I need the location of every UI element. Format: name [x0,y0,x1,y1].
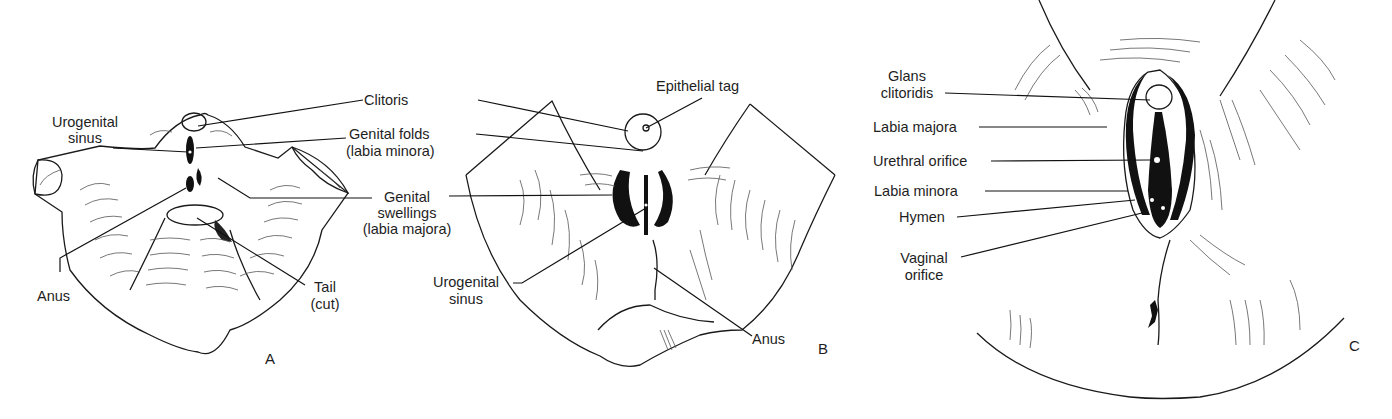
label-urogenital-sinus-a-line2: sinus [45,130,125,146]
label-epithelial-tag: Epithelial tag [656,78,739,94]
label-clitoris-a: Clitoris [364,92,408,108]
panel-c-drawing [945,0,1344,399]
label-vaginal-orifice-line1: Vaginal [888,250,960,266]
label-genital-swellings-line1: Genital [366,189,448,205]
label-genital-folds-line2: (labia minora) [346,143,435,159]
panel-b-drawing [449,98,835,366]
label-genital-swellings-line3: (labia majora) [348,221,466,237]
label-genital-swellings-line2: swellings [366,205,448,221]
panel-letter-a: A [265,350,275,367]
label-glans-line1: Glans [871,68,943,84]
label-vaginal-orifice-line2: orifice [888,267,960,283]
label-anus-b: Anus [752,331,785,347]
panel-letter-c: C [1349,337,1360,354]
label-urogenital-sinus-b-line1: Urogenital [420,274,512,290]
label-glans-line2: clitoridis [871,85,943,101]
line-drawing [0,0,1392,419]
label-tail-line2: (cut) [303,296,347,312]
label-anus-a: Anus [37,288,70,304]
label-genital-folds-line1: Genital folds [349,126,430,142]
label-labia-minora: Labia minora [874,183,958,199]
label-urogenital-sinus-a-line1: Urogenital [45,114,125,130]
label-urogenital-sinus-b-line2: sinus [420,291,512,307]
label-hymen: Hymen [899,209,945,225]
label-urethral-orifice: Urethral orifice [873,153,967,169]
label-tail-line1: Tail [303,279,347,295]
label-labia-majora: Labia majora [873,119,957,135]
panel-letter-b: B [818,340,828,357]
